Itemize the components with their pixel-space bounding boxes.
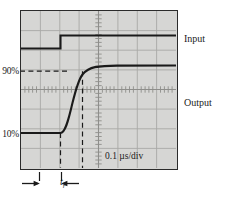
- oscilloscope-figure: 0.1 µs/div 90% 10% Input Output: [0, 0, 227, 199]
- timebase-label: 0.1 µs/div: [105, 151, 143, 161]
- rise-time-annotation: [20, 172, 140, 196]
- scope-svg: [21, 11, 176, 168]
- rise-time-arrows: [20, 172, 140, 196]
- axis-label-90-percent: 90%: [0, 66, 19, 76]
- grid-layer: [21, 11, 177, 169]
- scope-screen: 0.1 µs/div: [20, 10, 178, 170]
- rise-time-subscript: r: [63, 182, 66, 190]
- input-trace-label: Input: [184, 33, 205, 44]
- rise-time-label: tr: [60, 176, 66, 190]
- reference-level-lines: [21, 71, 69, 133]
- output-trace-label: Output: [184, 97, 212, 108]
- axis-label-10-percent: 10%: [0, 129, 19, 139]
- marker-stubs: [40, 172, 62, 181]
- left-arrow: [22, 181, 40, 187]
